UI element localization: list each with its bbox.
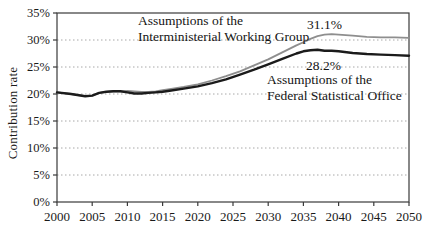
y-tick-label: 30%	[27, 33, 50, 47]
y-tick-label: 5%	[33, 168, 50, 182]
x-tick-label: 2045	[361, 209, 387, 224]
x-tick-label: 2035	[290, 209, 316, 224]
y-tick-label: 35%	[27, 6, 50, 20]
x-tick-label: 2050	[396, 209, 422, 224]
annotation-interministerial-working-group: Assumptions of the Interministerial Work…	[138, 13, 309, 45]
x-tick-label: 2005	[79, 209, 105, 224]
x-tick-label: 2010	[114, 209, 140, 224]
y-tick-label: 15%	[27, 114, 50, 128]
x-tick-label: 2040	[326, 209, 352, 224]
y-tick-label: 10%	[27, 141, 50, 155]
y-axis-title: Contribution rate	[5, 53, 21, 173]
annotation-imwg-line2: Interministerial Working Group	[138, 29, 309, 45]
x-tick-label: 2030	[255, 209, 281, 224]
y-tick-label: 20%	[27, 87, 50, 101]
y-tick-label: 25%	[27, 60, 50, 74]
annotation-fso-line2: Federal Statistical Office	[267, 88, 402, 104]
x-tick-label: 2015	[150, 209, 176, 224]
x-tick-label: 2025	[220, 209, 246, 224]
x-tick-label: 2020	[185, 209, 211, 224]
y-tick-label: 0%	[33, 195, 50, 209]
annotation-imwg-line1: Assumptions of the	[138, 13, 309, 29]
contribution-rate-figure: 0%5%10%15%20%25%30%35%200020052010201520…	[0, 0, 434, 236]
peak-value-label-imwg: 31.1%	[307, 17, 342, 33]
annotation-federal-statistical-office: Assumptions of the Federal Statistical O…	[267, 72, 402, 104]
annotation-fso-line1: Assumptions of the	[267, 72, 402, 88]
x-tick-label: 2000	[44, 209, 70, 224]
